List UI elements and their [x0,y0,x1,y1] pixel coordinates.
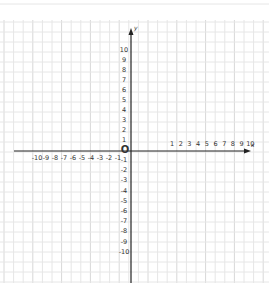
tick-label: 10 [246,140,254,148]
tick-label: -8 [52,154,58,162]
tick-label: -7 [121,217,127,225]
tick-label: 8 [122,66,126,74]
tick-label: 5 [205,140,209,148]
tick-label: 4 [122,106,126,114]
tick-label: 3 [122,116,126,124]
tick-label: 3 [187,140,191,148]
tick-label: 2 [122,126,126,134]
tick-label: 9 [240,140,244,148]
y-negative-tick-labels: -1-2-3-4-5-6-7-8-9-10 [119,156,130,256]
tick-label: -10 [32,154,43,162]
tick-label: 5 [122,96,126,104]
tick-label: 10 [120,46,128,54]
tick-label: -7 [61,154,67,162]
tick-label: -3 [97,154,103,162]
tick-label: -3 [121,176,127,184]
tick-label: -9 [43,154,49,162]
tick-label: 7 [222,140,226,148]
tick-label: -1 [121,156,127,164]
coordinate-plane: x y O 12345678910 -10-9-8-7-6-5-4-3-2-1 … [0,0,269,283]
tick-label: 8 [231,140,235,148]
tick-label: -5 [121,197,127,205]
tick-label: -4 [121,187,127,195]
x-axis-arrow-icon [244,149,251,154]
origin-label: O [121,144,130,155]
tick-label: 1 [122,136,126,144]
x-negative-tick-labels: -10-9-8-7-6-5-4-3-2-1 [32,154,122,162]
tick-label: 7 [122,76,126,84]
tick-label: -8 [121,227,127,235]
tick-label: 6 [122,86,126,94]
tick-label: -6 [121,207,127,215]
tick-label: 2 [179,140,183,148]
tick-label: -2 [106,154,112,162]
tick-label: 9 [122,56,126,64]
tick-label: -4 [88,154,94,162]
graph-paper-grid [0,4,269,283]
tick-label: -2 [121,166,127,174]
tick-label: -10 [119,248,130,256]
tick-label: 4 [196,140,200,148]
tick-label: -6 [70,154,76,162]
tick-label: 6 [213,140,217,148]
tick-label: -5 [79,154,85,162]
x-positive-tick-labels: 12345678910 [170,140,255,148]
y-axis-label: y [133,24,138,32]
y-positive-tick-labels: 10987654321 [120,46,128,144]
tick-label: 1 [170,140,174,148]
tick-label: -9 [121,238,127,246]
